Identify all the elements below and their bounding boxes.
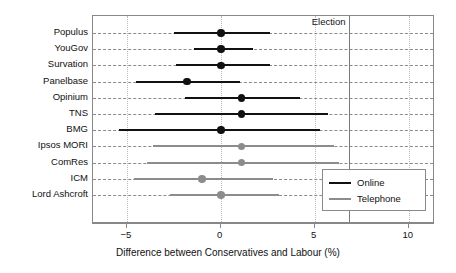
legend-swatch-online-icon [329,182,351,184]
interval-row[interactable] [93,140,433,152]
legend-item-telephone[interactable]: Telephone [329,191,401,207]
category-label-opinium: Opinium [0,92,88,102]
confidence-interval-bar [170,194,279,196]
estimate-point [217,29,225,37]
legend-item-online[interactable]: Online [329,175,384,191]
estimate-point [217,45,225,53]
interval-row[interactable] [93,43,433,55]
estimate-point [238,143,246,151]
x-axis-tick-label: 10 [402,229,413,240]
x-axis-tick [126,223,127,228]
interval-row[interactable] [93,59,433,71]
category-label-populus: Populus [0,27,88,37]
legend-label-telephone: Telephone [357,194,401,204]
x-axis-tick [220,223,221,228]
estimate-point [183,78,191,86]
category-label-bmg: BMG [0,124,88,134]
legend-label-online: Online [357,178,384,188]
category-label-tns: TNS [0,108,88,118]
category-label-yougov: YouGov [0,43,88,53]
chart-root: PopulusYouGovSurvationPanelbaseOpiniumTN… [0,0,456,273]
category-label-icm: ICM [0,173,88,183]
category-label-survation: Survation [0,59,88,69]
estimate-point [217,191,225,199]
x-axis-line [92,223,434,224]
interval-row[interactable] [93,157,433,169]
category-label-panelbase: Panelbase [0,76,88,86]
legend: Online Telephone [322,169,426,211]
interval-row[interactable] [93,92,433,104]
x-axis-tick [408,223,409,228]
category-label-ipsos-mori: Ipsos MORI [0,140,88,150]
x-axis-tick-label: 0 [217,229,222,240]
category-label-lord-ashcroft: Lord Ashcroft [0,189,88,199]
estimate-point [217,126,225,134]
estimate-point [238,159,246,167]
estimate-point [238,94,246,102]
category-axis-labels: PopulusYouGovSurvationPanelbaseOpiniumTN… [0,15,88,223]
election-annotation-label: Election [312,17,349,27]
estimate-point [238,110,246,118]
estimate-point [198,175,206,183]
x-axis-title: Difference between Conservatives and Lab… [0,247,456,258]
legend-swatch-telephone-icon [329,198,351,200]
interval-row[interactable] [93,76,433,88]
estimate-point [217,62,225,70]
interval-row[interactable] [93,124,433,136]
interval-row[interactable] [93,108,433,120]
category-label-comres: ComRes [0,157,88,167]
x-axis-tick-label: −5 [120,229,131,240]
x-axis-tick [314,223,315,228]
x-axis-tick-label: 5 [311,229,316,240]
interval-row[interactable] [93,27,433,39]
